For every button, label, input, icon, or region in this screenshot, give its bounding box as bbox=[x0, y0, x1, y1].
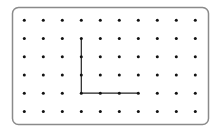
grid-dot bbox=[80, 73, 83, 76]
grid-dot bbox=[80, 110, 83, 113]
grid-dot bbox=[194, 92, 197, 95]
grid-dot bbox=[118, 73, 121, 76]
grid-dot bbox=[42, 37, 45, 40]
grid-dot bbox=[99, 110, 102, 113]
grid-dot bbox=[137, 37, 140, 40]
grid-dot bbox=[175, 110, 178, 113]
grid-dot bbox=[118, 110, 121, 113]
grid-dot bbox=[156, 92, 159, 95]
grid-dot bbox=[156, 37, 159, 40]
grid-dot bbox=[99, 37, 102, 40]
grid-dot bbox=[137, 73, 140, 76]
grid-dot bbox=[194, 37, 197, 40]
grid-dot bbox=[80, 55, 83, 58]
grid-dot bbox=[99, 73, 102, 76]
grid-dot bbox=[80, 19, 83, 22]
grid-dot bbox=[156, 19, 159, 22]
grid-dot bbox=[61, 110, 64, 113]
grid-dot bbox=[194, 55, 197, 58]
grid-dot bbox=[137, 19, 140, 22]
grid-dot bbox=[156, 110, 159, 113]
grid-dot bbox=[118, 55, 121, 58]
grid-dot bbox=[42, 19, 45, 22]
grid-dot bbox=[118, 37, 121, 40]
grid-dot bbox=[99, 55, 102, 58]
grid-dot bbox=[194, 73, 197, 76]
grid-dot bbox=[42, 55, 45, 58]
grid-dot bbox=[61, 37, 64, 40]
grid-dot bbox=[23, 55, 26, 58]
grid-dot bbox=[156, 73, 159, 76]
grid-dot bbox=[23, 73, 26, 76]
grid-dot bbox=[175, 19, 178, 22]
grid-dots bbox=[23, 19, 197, 113]
grid-dot bbox=[175, 37, 178, 40]
grid-dot bbox=[42, 73, 45, 76]
grid-dot bbox=[175, 73, 178, 76]
grid-dot bbox=[137, 110, 140, 113]
grid-dot bbox=[99, 19, 102, 22]
grid-dot bbox=[118, 92, 121, 95]
grid-dot bbox=[23, 37, 26, 40]
grid-dot bbox=[23, 110, 26, 113]
grid-dot bbox=[175, 92, 178, 95]
grid-dot bbox=[80, 92, 83, 95]
grid-border bbox=[13, 8, 209, 125]
grid-dot bbox=[175, 55, 178, 58]
grid-dot bbox=[137, 55, 140, 58]
grid-dot bbox=[42, 92, 45, 95]
grid-dot bbox=[23, 19, 26, 22]
grid-dot bbox=[194, 19, 197, 22]
grid-dot bbox=[80, 37, 83, 40]
grid-dot bbox=[118, 19, 121, 22]
grid-dot bbox=[194, 110, 197, 113]
l-shape-path bbox=[81, 38, 138, 93]
grid-dot bbox=[61, 73, 64, 76]
grid-dot bbox=[156, 55, 159, 58]
grid-dot bbox=[61, 55, 64, 58]
grid-dot bbox=[61, 92, 64, 95]
grid-dot bbox=[61, 19, 64, 22]
grid-dot bbox=[137, 92, 140, 95]
grid-dot bbox=[23, 92, 26, 95]
grid-dot bbox=[99, 92, 102, 95]
dot-grid-diagram bbox=[0, 0, 219, 132]
grid-dot bbox=[42, 110, 45, 113]
